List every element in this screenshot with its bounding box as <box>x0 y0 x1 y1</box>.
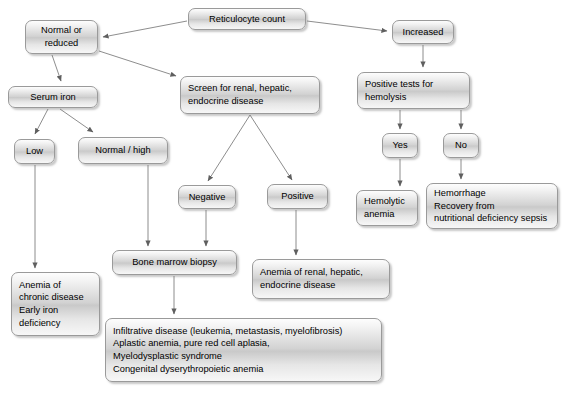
node-positive[interactable]: Positive <box>267 184 328 209</box>
node-increased[interactable]: Increased <box>392 20 454 44</box>
node-positive-tests-hemolysis[interactable]: Positive tests for hemolysis <box>357 72 470 109</box>
node-serum-iron[interactable]: Serum iron <box>8 86 98 108</box>
edge-screen-to-positive <box>250 115 292 180</box>
node-label: Positive tests for hemolysis <box>358 78 469 103</box>
node-label: Increased <box>393 26 453 39</box>
node-label: Yes <box>383 139 417 152</box>
node-label: No <box>444 139 478 152</box>
node-label: Negative <box>179 191 235 204</box>
edge-serum-iron-to-normal-high <box>60 109 93 132</box>
edge-retic-to-normal <box>103 21 187 37</box>
node-anemia-renal-hepatic-endocrine[interactable]: Anemia of renal, hepatic, endocrine dise… <box>252 259 390 299</box>
node-screen-renal-hepatic-endocrine[interactable]: Screen for renal, hepatic, endocrine dis… <box>180 76 320 114</box>
node-label: Low <box>15 145 54 158</box>
node-label: Bone marrow biopsy <box>113 256 236 269</box>
edge-serum-iron-to-low <box>35 109 48 134</box>
node-label: Reticulocyte count <box>189 13 305 26</box>
node-hemolytic-anemia[interactable]: Hemolytic anemia <box>356 190 418 226</box>
node-marrow-findings[interactable]: Infiltrative disease (leukemia, metastas… <box>105 318 382 382</box>
node-hemorrhage-recovery[interactable]: Hemorrhage Recovery from nutritional def… <box>426 183 558 229</box>
edge-normal-to-screen <box>99 51 176 76</box>
node-reticulocyte-count[interactable]: Reticulocyte count <box>188 8 306 30</box>
node-normal-high[interactable]: Normal / high <box>78 137 168 164</box>
node-label: Infiltrative disease (leukemia, metastas… <box>106 325 381 375</box>
node-anemia-chronic-disease[interactable]: Anemia of chronic disease Early iron def… <box>11 272 100 336</box>
edge-normal-to-serum-iron <box>52 55 61 81</box>
node-label: Normal or reduced <box>26 24 97 49</box>
node-bone-marrow-biopsy[interactable]: Bone marrow biopsy <box>112 250 237 275</box>
node-label: Serum iron <box>9 91 97 104</box>
node-negative[interactable]: Negative <box>178 185 236 209</box>
node-low[interactable]: Low <box>14 139 55 164</box>
node-normal-or-reduced[interactable]: Normal or reduced <box>25 20 98 54</box>
node-label: Anemia of chronic disease Early iron def… <box>12 279 99 329</box>
flowchart-canvas: Reticulocyte count Normal or reduced Inc… <box>0 0 566 402</box>
node-no[interactable]: No <box>443 133 479 158</box>
node-yes[interactable]: Yes <box>382 133 418 158</box>
edge-screen-to-negative <box>208 115 250 181</box>
node-label: Hemorrhage Recovery from nutritional def… <box>427 187 557 225</box>
node-label: Screen for renal, hepatic, endocrine dis… <box>181 82 319 107</box>
edge-retic-to-increased <box>307 21 387 31</box>
node-label: Normal / high <box>79 144 167 157</box>
node-label: Hemolytic anemia <box>357 195 417 220</box>
node-label: Positive <box>268 190 327 203</box>
node-label: Anemia of renal, hepatic, endocrine dise… <box>253 266 389 291</box>
